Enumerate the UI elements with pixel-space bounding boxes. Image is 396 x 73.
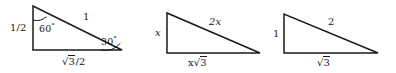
triangle-half-unit-horizontal-leg-label: √3/2 [62, 57, 85, 67]
leg2-radicand: 3 [200, 56, 207, 68]
triangle-half-unit-hypotenuse-label: 1 [83, 12, 89, 22]
angle-30-value: 30 [101, 36, 113, 47]
leg2-radical: √3 [194, 58, 207, 68]
angle-arc-60-icon [33, 17, 46, 21]
triangle-unit-one-vertical-leg-label: 1 [273, 29, 279, 39]
angle-60-value: 60 [39, 23, 51, 34]
triangle-half-unit-top-angle-label: 60° [39, 24, 55, 34]
angle-30-degree-symbol: ° [113, 35, 117, 43]
math-figure: 1/2 1 60° 30° √3/2 x 2x x√3 1 2 √3 [0, 0, 396, 73]
leg3-radicand: 3 [323, 56, 330, 68]
triangle-variable-x-vertical-leg-label: x [155, 28, 161, 38]
triangle-half-unit-vertical-leg-label: 1/2 [10, 23, 26, 33]
triangle-unit-one-horizontal-leg-label: √3 [317, 58, 330, 68]
leg1-radical: √3 [62, 57, 75, 67]
triangle-variable-x-hypotenuse-label: 2x [209, 17, 221, 27]
leg3-radical: √3 [317, 58, 330, 68]
triangle-unit-one-hypotenuse-label: 2 [328, 17, 334, 27]
triangle-variable-x-horizontal-leg-label: x√3 [188, 58, 207, 68]
leg1-suffix: /2 [75, 56, 85, 67]
triangle-half-unit-bottom-angle-label: 30° [101, 37, 117, 47]
angle-60-degree-symbol: ° [51, 22, 55, 30]
